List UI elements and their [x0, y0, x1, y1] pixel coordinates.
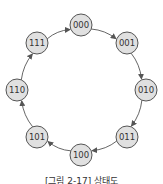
- figure-caption: [그림 2-17] 상태도: [0, 174, 163, 184]
- transition-arrow: [91, 29, 116, 39]
- state-node-010: 010: [135, 79, 157, 101]
- state-label: 000: [73, 20, 89, 30]
- state-label: 111: [29, 38, 45, 48]
- state-node-000: 000: [70, 14, 92, 36]
- state-node-011: 011: [116, 126, 138, 148]
- transition-arrow: [92, 141, 117, 151]
- transition-arrow: [47, 30, 70, 39]
- state-node-111: 111: [26, 32, 48, 54]
- state-label: 101: [29, 132, 45, 142]
- state-node-100: 100: [70, 144, 92, 166]
- state-label: 010: [138, 85, 154, 95]
- state-node-110: 110: [6, 79, 28, 101]
- state-node-001: 001: [116, 32, 138, 54]
- state-label: 011: [119, 132, 135, 142]
- transition-arrow: [21, 54, 32, 80]
- transition-arrow: [131, 53, 141, 79]
- transition-arrow: [22, 101, 33, 127]
- state-label: 100: [73, 150, 89, 160]
- state-label: 001: [119, 38, 135, 48]
- state-label: 110: [9, 85, 25, 95]
- state-node-101: 101: [26, 126, 48, 148]
- transition-arrow: [131, 100, 141, 126]
- state-diagram: 000001010011100101110111: [0, 0, 163, 184]
- nodes: 000001010011100101110111: [6, 14, 157, 166]
- transition-arrow: [48, 142, 71, 151]
